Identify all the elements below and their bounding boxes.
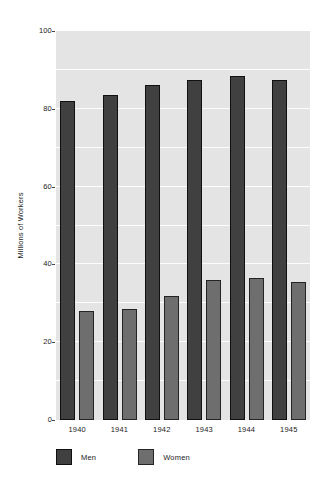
x-tick-label-1941: 1941 — [98, 425, 140, 434]
bar-men-1940 — [60, 101, 75, 420]
bar-women-1941 — [122, 309, 137, 420]
y-tick-mark-80 — [52, 109, 55, 110]
bar-chart-figure: Millions of Workers 020406080100 1940194… — [0, 0, 327, 485]
bottom-edge-strip — [0, 476, 327, 485]
x-axis-ticks: 194019411942194319441945 — [56, 422, 310, 436]
bar-women-1945 — [291, 282, 306, 420]
y-tick-mark-20 — [52, 342, 55, 343]
bar-men-1942 — [145, 85, 160, 420]
y-tick-label-80: 80 — [6, 105, 52, 113]
y-tick-label-60: 60 — [6, 183, 52, 191]
legend-entry-men[interactable]: Men — [56, 449, 96, 465]
bar-women-1942 — [164, 296, 179, 420]
y-tick-label-40: 40 — [6, 260, 52, 268]
legend-label-men: Men — [81, 453, 96, 462]
legend-swatch-women — [138, 449, 154, 465]
x-tick-label-1943: 1943 — [183, 425, 225, 434]
plot-area — [56, 31, 310, 420]
bar-men-1941 — [103, 95, 118, 420]
gridline-90 — [56, 69, 310, 70]
y-tick-mark-100 — [52, 31, 55, 32]
y-axis-ticks: 020406080100 — [0, 31, 52, 420]
x-tick-label-1940: 1940 — [56, 425, 98, 434]
x-tick-label-1945: 1945 — [268, 425, 310, 434]
legend-label-women: Women — [163, 453, 190, 462]
bar-women-1944 — [249, 278, 264, 420]
chart-legend: Men Women — [56, 446, 190, 468]
x-tick-label-1944: 1944 — [225, 425, 267, 434]
bar-men-1944 — [230, 76, 245, 420]
y-tick-mark-60 — [52, 187, 55, 188]
bar-men-1945 — [272, 80, 287, 420]
y-tick-mark-40 — [52, 264, 55, 265]
legend-entry-women[interactable]: Women — [138, 449, 190, 465]
x-tick-label-1942: 1942 — [141, 425, 183, 434]
y-tick-label-0: 0 — [6, 416, 52, 424]
y-tick-label-100: 100 — [6, 27, 52, 35]
bar-women-1940 — [79, 311, 94, 420]
y-tick-mark-0 — [52, 420, 55, 421]
legend-swatch-men — [56, 449, 72, 465]
bar-men-1943 — [187, 80, 202, 420]
bar-women-1943 — [206, 280, 221, 420]
y-tick-label-20: 20 — [6, 338, 52, 346]
